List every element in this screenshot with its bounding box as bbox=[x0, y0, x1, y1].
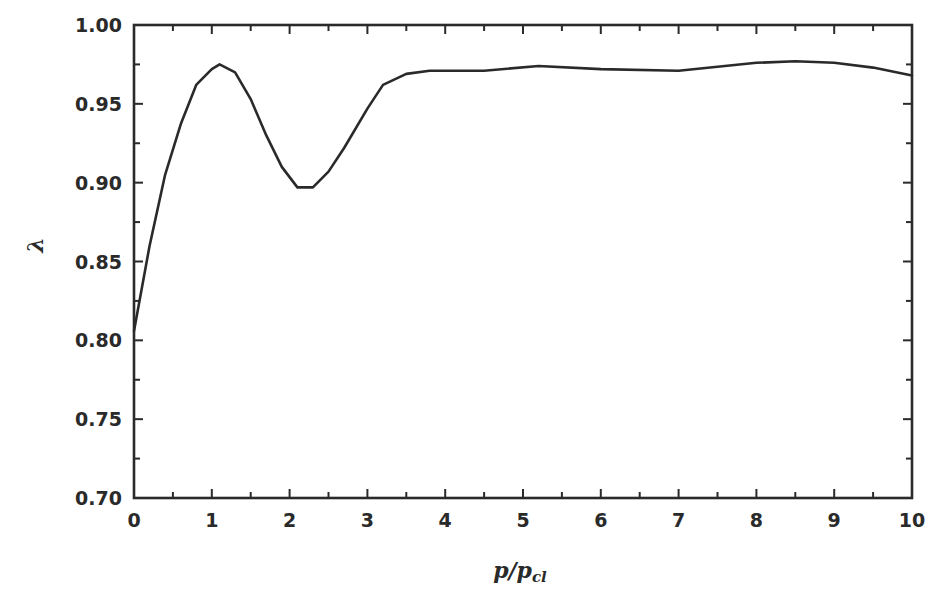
y-tick-label: 0.80 bbox=[75, 329, 122, 351]
x-axis-title-main: p/p bbox=[493, 557, 532, 583]
y-tick-label: 0.95 bbox=[75, 93, 122, 115]
x-tick-label: 7 bbox=[672, 509, 685, 531]
y-tick-label: 0.75 bbox=[75, 408, 122, 430]
x-tick-label: 6 bbox=[594, 509, 607, 531]
line-chart: 0123456789100.700.750.800.850.900.951.00… bbox=[0, 0, 939, 591]
x-tick-label: 5 bbox=[516, 509, 529, 531]
x-axis-title: p/pcl bbox=[493, 557, 547, 586]
y-tick-label: 0.90 bbox=[75, 172, 122, 194]
x-tick-label: 3 bbox=[361, 509, 374, 531]
x-tick-label: 4 bbox=[439, 509, 452, 531]
data-line bbox=[134, 61, 912, 331]
x-tick-label: 8 bbox=[750, 509, 763, 531]
x-tick-label: 1 bbox=[205, 509, 218, 531]
x-axis-title-sub: cl bbox=[532, 568, 547, 586]
y-tick-label: 0.85 bbox=[75, 251, 122, 273]
tick-labels: 0123456789100.700.750.800.850.900.951.00 bbox=[75, 14, 925, 531]
plot-border bbox=[134, 25, 912, 498]
y-axis-title: λ bbox=[22, 237, 48, 253]
axis-ticks bbox=[134, 25, 912, 498]
y-tick-label: 1.00 bbox=[75, 14, 122, 36]
x-tick-label: 9 bbox=[828, 509, 841, 531]
x-tick-label: 0 bbox=[127, 509, 140, 531]
y-tick-label: 0.70 bbox=[75, 487, 122, 509]
x-tick-label: 2 bbox=[283, 509, 296, 531]
x-tick-label: 10 bbox=[899, 509, 925, 531]
plot-frame bbox=[134, 25, 912, 498]
